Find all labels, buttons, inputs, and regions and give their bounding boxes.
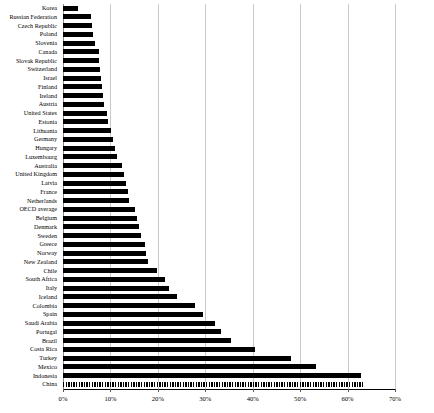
- category-label: Russian Federation: [0, 13, 60, 22]
- category-label: Korea: [0, 4, 60, 13]
- bar: [63, 67, 100, 72]
- category-label: Chile: [0, 267, 60, 276]
- category-label: Indonesia: [0, 372, 60, 381]
- category-label: Denmark: [0, 223, 60, 232]
- bar: [63, 163, 122, 168]
- bar: [63, 49, 99, 54]
- bar: [63, 268, 157, 273]
- category-label: Iceland: [0, 293, 60, 302]
- tick-mark-10pct: [110, 389, 111, 392]
- x-tick-label: 60%: [342, 394, 354, 404]
- bar-row: [63, 13, 395, 22]
- bar-row: [63, 380, 395, 389]
- bar-row: [63, 354, 395, 363]
- bar: [63, 259, 148, 264]
- tick-mark-30pct: [205, 389, 206, 392]
- category-label: Mexico: [0, 363, 60, 372]
- bar-row: [63, 92, 395, 101]
- category-label: France: [0, 188, 60, 197]
- bar-row: [63, 275, 395, 284]
- category-label: Norway: [0, 249, 60, 258]
- tick-mark-40pct: [253, 389, 254, 392]
- plot-area: [63, 4, 395, 389]
- bar: [63, 233, 141, 238]
- bar: [63, 329, 221, 334]
- category-label: Poland: [0, 30, 60, 39]
- category-label: Austria: [0, 100, 60, 109]
- category-label: Sweden: [0, 232, 60, 241]
- bar-row: [63, 345, 395, 354]
- bar-row: [63, 188, 395, 197]
- category-label: Finland: [0, 83, 60, 92]
- category-label: New Zealand: [0, 258, 60, 267]
- category-label: United Kingdom: [0, 170, 60, 179]
- category-label: Estonia: [0, 118, 60, 127]
- bar: [63, 312, 203, 317]
- category-label: Belgium: [0, 214, 60, 223]
- bar-row: [63, 337, 395, 346]
- bar-row: [63, 319, 395, 328]
- bar: [63, 181, 126, 186]
- bar-chart: KoreaRussian FederationCzech RepublicPol…: [0, 0, 434, 413]
- bar-row: [63, 39, 395, 48]
- bar-row: [63, 118, 395, 127]
- bar: [63, 216, 137, 221]
- bar: [63, 14, 91, 19]
- category-label: Greece: [0, 240, 60, 249]
- bar: [63, 84, 102, 89]
- category-label: Italy: [0, 284, 60, 293]
- category-label: Saudi Arabia: [0, 319, 60, 328]
- bar-row: [63, 22, 395, 31]
- bar: [63, 146, 115, 151]
- category-label: Switzerland: [0, 65, 60, 74]
- bar-row: [63, 100, 395, 109]
- category-label: Germany: [0, 135, 60, 144]
- category-label: Latvia: [0, 179, 60, 188]
- bar: [63, 294, 177, 299]
- category-label: Spain: [0, 310, 60, 319]
- bar: [63, 154, 117, 159]
- x-tick-label: 40%: [247, 394, 259, 404]
- tick-mark-0pct: [63, 389, 64, 392]
- bar: [63, 137, 113, 142]
- bar-row: [63, 232, 395, 241]
- bar-row: [63, 162, 395, 171]
- category-axis-labels: KoreaRussian FederationCzech RepublicPol…: [0, 4, 60, 389]
- bar: [63, 172, 124, 177]
- bar-row: [63, 223, 395, 232]
- category-label: Colombia: [0, 302, 60, 311]
- x-tick-label: 30%: [199, 394, 211, 404]
- bar-row: [63, 83, 395, 92]
- bar: [63, 198, 129, 203]
- bar: [63, 303, 195, 308]
- bar-row: [63, 48, 395, 57]
- bar-series: [63, 4, 395, 389]
- bar-row: [63, 153, 395, 162]
- bar-row: [63, 74, 395, 83]
- bar-row: [63, 197, 395, 206]
- bar-row: [63, 179, 395, 188]
- bar-row: [63, 310, 395, 319]
- bar: [63, 286, 169, 291]
- x-axis-tick-labels: 0%10%20%30%40%50%60%70%: [0, 394, 434, 408]
- bar-row: [63, 249, 395, 258]
- bar: [63, 128, 111, 133]
- bar-row: [63, 205, 395, 214]
- category-label: Turkey: [0, 354, 60, 363]
- bar-row: [63, 293, 395, 302]
- bar: [63, 321, 215, 326]
- bar: [63, 58, 99, 63]
- x-tick-label: 10%: [104, 394, 116, 404]
- tick-mark-20pct: [158, 389, 159, 392]
- bar-row: [63, 30, 395, 39]
- tick-mark-50pct: [300, 389, 301, 392]
- bar-row: [63, 135, 395, 144]
- category-label: Hungary: [0, 144, 60, 153]
- bar: [63, 93, 103, 98]
- bar: [63, 6, 78, 11]
- category-label: Israel: [0, 74, 60, 83]
- bar: [63, 32, 93, 37]
- tick-mark-60pct: [348, 389, 349, 392]
- bar: [63, 251, 146, 256]
- bar-row: [63, 267, 395, 276]
